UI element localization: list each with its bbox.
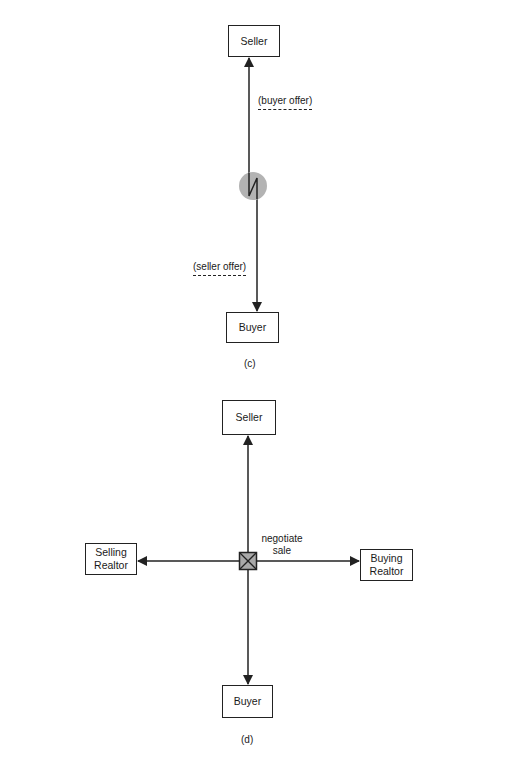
label-negotiate-sale: negotiate sale	[257, 533, 307, 557]
caption-d: (d)	[241, 734, 253, 745]
node-buying-realtor: Buying Realtor	[360, 549, 413, 581]
label-buyer-offer: (buyer offer)	[258, 95, 312, 110]
node-label: Buyer	[234, 695, 261, 708]
node-label: Buying Realtor	[365, 552, 408, 578]
diagram-lines	[0, 0, 508, 757]
node-label: Seller	[241, 35, 268, 48]
node-selling-realtor: Selling Realtor	[85, 543, 137, 575]
node-buyer-d: Buyer	[222, 685, 273, 718]
node-seller-d: Seller	[222, 400, 276, 435]
label-seller-offer: (seller offer)	[193, 261, 246, 276]
node-label: Buyer	[239, 321, 266, 334]
node-label: Selling Realtor	[90, 546, 132, 572]
caption-c: (c)	[244, 358, 256, 369]
node-seller-c: Seller	[228, 25, 280, 57]
node-buyer-c: Buyer	[226, 312, 279, 343]
node-label: Seller	[236, 411, 263, 424]
